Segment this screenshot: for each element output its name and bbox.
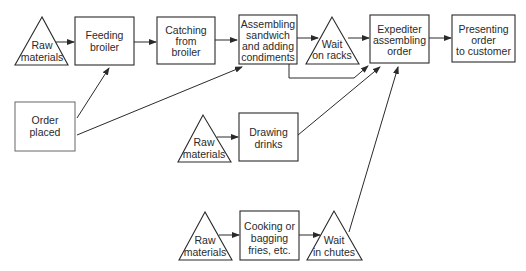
node-label-line: Wait bbox=[324, 234, 345, 246]
node-raw-materials-1: Raw materials bbox=[15, 17, 68, 65]
node-label-line: materials bbox=[183, 148, 226, 160]
node-raw-materials-2: Raw materials bbox=[178, 115, 231, 162]
node-label-line: Feeding bbox=[86, 29, 124, 41]
node-label-line: placed bbox=[30, 126, 61, 138]
node-catching-from-broiler: Catching from broiler bbox=[157, 17, 215, 64]
node-label-line: Raw bbox=[193, 136, 214, 148]
node-label-line: condiments bbox=[241, 51, 295, 63]
node-assembling-sandwich: Assembling sandwich and adding condiment… bbox=[239, 15, 297, 64]
node-label-line: materials bbox=[21, 51, 64, 63]
node-label-line: bagging bbox=[251, 232, 289, 244]
node-label-line: Drawing bbox=[249, 126, 288, 138]
node-feeding-broiler: Feeding broiler bbox=[75, 17, 134, 65]
node-label-line: Order bbox=[32, 114, 59, 126]
node-cooking-fries: Cooking or bagging fries, etc. bbox=[240, 211, 299, 260]
edge-order-to-assembling bbox=[77, 67, 242, 135]
edge-drawing-to-expediter bbox=[298, 67, 380, 135]
edge-assembling-bypass-to-expediter bbox=[289, 64, 368, 78]
node-label-line: in chutes bbox=[313, 246, 355, 258]
node-label-line: to customer bbox=[456, 45, 511, 57]
process-flow-diagram: Raw materials Feeding broiler Catching f… bbox=[0, 0, 526, 271]
node-label-line: Raw bbox=[31, 39, 52, 51]
node-label-line: on racks bbox=[312, 49, 352, 61]
node-label-line: broiler bbox=[90, 41, 120, 53]
node-order-placed: Order placed bbox=[15, 102, 75, 151]
node-wait-on-racks: Wait on racks bbox=[306, 17, 359, 64]
node-label-line: Cooking or bbox=[244, 220, 295, 232]
node-label-line: Raw bbox=[194, 234, 215, 246]
node-label-line: fries, etc. bbox=[248, 244, 291, 256]
edge-order-to-feeding bbox=[77, 68, 109, 118]
node-label-line: materials bbox=[184, 246, 227, 258]
node-label-line: order bbox=[387, 45, 412, 57]
node-expediter-assembling-order: Expediter assembling order bbox=[370, 15, 429, 63]
node-label-line: broiler bbox=[171, 46, 201, 58]
node-drawing-drinks: Drawing drinks bbox=[239, 113, 298, 161]
edge-wait-chutes-to-expediter bbox=[349, 67, 398, 232]
node-presenting-order: Presenting order to customer bbox=[452, 15, 515, 62]
node-label-line: drinks bbox=[254, 138, 282, 150]
node-raw-materials-3: Raw materials bbox=[179, 212, 232, 260]
